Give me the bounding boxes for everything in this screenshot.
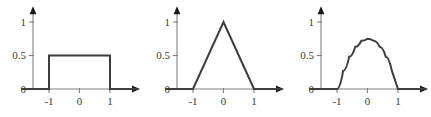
x-axis-ticks: -101: [44, 88, 112, 107]
chart-panel-epanechnikov-kernel: 00.51-101: [288, 0, 431, 117]
axes: [166, 6, 284, 92]
axes: [310, 6, 428, 92]
y-tick-label: 0.5: [156, 49, 170, 61]
x-tick-label: 1: [251, 95, 257, 107]
y-tick-label: 1: [165, 16, 171, 28]
uniform-kernel-curve: [22, 56, 138, 90]
y-tick-label: 1: [309, 16, 315, 28]
x-tick-label: -1: [188, 95, 197, 107]
y-axis-arrow-icon: [174, 6, 181, 14]
x-tick-label: 1: [107, 95, 113, 107]
chart-panel-uniform-kernel: 00.51-101: [0, 0, 144, 117]
x-tick-label: 0: [365, 95, 371, 107]
x-tick-label: 0: [77, 95, 83, 107]
y-tick-label: 1: [21, 16, 27, 28]
y-tick-label: 0.5: [300, 49, 314, 61]
epanechnikov-kernel-curve: [310, 39, 426, 89]
x-tick-label: 0: [221, 95, 227, 107]
y-axis-arrow-icon: [318, 6, 325, 14]
x-tick-label: 1: [395, 95, 401, 107]
y-tick-label: 0.5: [12, 49, 26, 61]
chart-panel-triangular-kernel: 00.51-101: [144, 0, 288, 117]
uniform-kernel-svg: 00.51-101: [0, 0, 144, 117]
kernel-functions-figure: 00.51-101 00.51-101 00.51-101: [0, 0, 431, 117]
triangular-kernel-svg: 00.51-101: [144, 0, 288, 117]
y-axis-ticks: 00.51: [156, 16, 178, 95]
y-axis-ticks: 00.51: [12, 16, 34, 95]
x-axis-ticks: -101: [332, 88, 400, 107]
triangular-kernel-curve: [166, 22, 282, 89]
y-axis-arrow-icon: [30, 6, 37, 14]
x-tick-label: -1: [44, 95, 53, 107]
y-axis-ticks: 00.51: [300, 16, 322, 95]
x-axis-ticks: -101: [188, 88, 256, 107]
axes: [22, 6, 140, 92]
x-tick-label: -1: [332, 95, 341, 107]
epanechnikov-kernel-svg: 00.51-101: [288, 0, 431, 117]
